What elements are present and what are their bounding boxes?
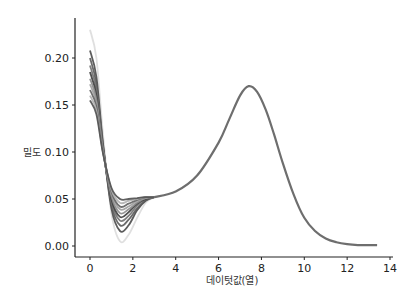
y-tick-label: 0.20: [45, 52, 70, 65]
x-tick-label: 4: [172, 262, 179, 275]
x-axis-label: 데이텃값(열): [206, 275, 259, 286]
y-tick-label: 0.15: [45, 99, 70, 112]
y-tick-label: 0.00: [45, 240, 70, 253]
x-tick-label: 8: [258, 262, 265, 275]
x-tick-label: 2: [129, 262, 136, 275]
density-curves: [90, 30, 377, 245]
density-chart: 02468101214 0.000.050.100.150.20 데이텃값(열)…: [0, 0, 420, 304]
y-tick-label: 0.05: [45, 193, 70, 206]
y-axis-label: 밀도: [23, 147, 41, 158]
x-tick-label: 0: [87, 262, 94, 275]
x-tick-label: 14: [383, 262, 397, 275]
x-tick-label: 10: [297, 262, 311, 275]
y-tick-label: 0.10: [45, 146, 70, 159]
x-tick-label: 6: [215, 262, 222, 275]
y-tick-labels: 0.000.050.100.150.20: [45, 52, 76, 253]
x-tick-labels: 02468101214: [87, 257, 398, 275]
x-tick-label: 12: [340, 262, 354, 275]
density-curve-shared-mode: [154, 86, 377, 245]
